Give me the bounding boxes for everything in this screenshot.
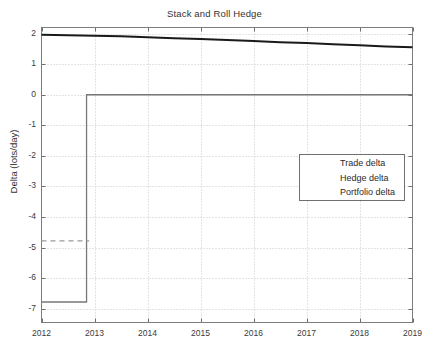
x-tick-label: 2019 [393,328,429,338]
y-tick-label: 2 [8,28,36,38]
legend-row: Trade delta [300,157,406,172]
x-tick-label: 2018 [340,328,380,338]
series-line-trade-delta [42,35,413,48]
legend-label-hedge-delta: Hedge delta [340,173,389,183]
x-tick-label: 2014 [128,328,168,338]
x-tick-label: 2015 [181,328,221,338]
legend-row: Hedge delta [300,172,406,187]
y-tick-label: -2 [8,150,36,160]
x-tick-label: 2017 [287,328,327,338]
chart-legend: Trade delta Hedge delta Portfolio delta [299,154,405,201]
y-tick-label: -1 [8,119,36,129]
y-tick-label: -5 [8,242,36,252]
legend-row: Portfolio delta [300,186,406,201]
x-tick-label: 2012 [22,328,62,338]
legend-label-portfolio-delta: Portfolio delta [340,187,395,197]
y-tick-label: -6 [8,272,36,282]
y-tick-label: -7 [8,303,36,313]
y-tick-label: 1 [8,58,36,68]
y-tick-label: -4 [8,211,36,221]
y-tick-label: 0 [8,89,36,99]
x-tick-label: 2016 [234,328,274,338]
legend-label-trade-delta: Trade delta [340,158,385,168]
chart-figure: Stack and Roll Hedge Delta (lots/day) 21… [0,0,429,352]
x-tick-label: 2013 [75,328,115,338]
y-tick-label: -3 [8,180,36,190]
